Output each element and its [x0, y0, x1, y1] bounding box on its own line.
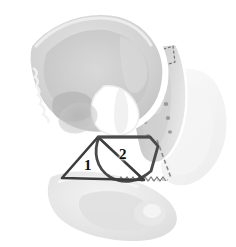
pelvis-figure: 1 2 [0, 0, 236, 247]
pubis-ischium [46, 170, 178, 242]
sacral-foramen [168, 130, 172, 134]
region-1-label: 1 [84, 158, 92, 173]
sacral-foramen [166, 116, 170, 120]
region-2-label: 2 [119, 147, 127, 162]
sacral-foramen [164, 102, 169, 106]
pelvis-illustration-svg [0, 0, 236, 247]
